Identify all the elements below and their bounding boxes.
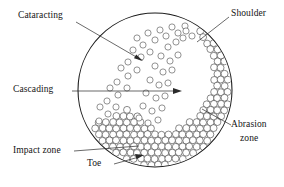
charge-ball (114, 79, 120, 85)
charge-ball (218, 100, 225, 107)
charge-ball (153, 95, 159, 101)
charge-ball (214, 58, 221, 65)
charge-ball (183, 125, 190, 132)
charge-ball (200, 131, 207, 138)
charge-ball (124, 106, 131, 113)
charge-ball (97, 104, 103, 110)
mill-charge-motion-diagram: Cataracting Cascading Shoulder Abrasion … (0, 0, 284, 187)
charge-ball (165, 143, 172, 150)
charge-ball (155, 117, 161, 123)
charge-ball (179, 143, 186, 150)
charge-ball (156, 82, 162, 88)
charge-ball (162, 137, 169, 144)
charge-ball (152, 131, 159, 138)
charge-ball (165, 80, 171, 86)
charge-ball (214, 119, 221, 126)
charge-ball (197, 112, 204, 119)
charge-ball (158, 143, 165, 150)
charge-ball (189, 125, 196, 132)
charge-ball (134, 35, 140, 41)
charge-ball (203, 113, 210, 120)
charge-ball (110, 119, 117, 126)
charge-ball (207, 46, 214, 53)
charge-ball (221, 94, 228, 101)
charge-ball (107, 85, 113, 91)
charge-ball (167, 58, 173, 64)
charge-ball (183, 28, 189, 34)
charge-ball (145, 120, 151, 126)
charge-ball (113, 113, 120, 120)
charge-ball (217, 64, 224, 71)
charge-ball (130, 47, 136, 53)
charge-ball (189, 33, 195, 39)
charge-ball (169, 24, 175, 30)
charge-ball (154, 149, 161, 156)
charge-ball (116, 131, 123, 138)
charge-ball (113, 104, 119, 110)
label-toe: Toe (87, 158, 101, 169)
charge-ball (144, 131, 151, 138)
charge-ball (214, 107, 221, 114)
label-impact-zone: Impact zone (13, 145, 61, 156)
charge-ball (204, 125, 211, 132)
charge-ball (165, 44, 171, 50)
charge-ball (158, 53, 164, 59)
label-cascading: Cascading (13, 84, 53, 95)
charge-ball (134, 67, 140, 73)
charge-ball (148, 149, 155, 156)
charge-ball (120, 149, 127, 156)
charge-ball (118, 65, 124, 71)
charge-ball (169, 137, 176, 144)
charge-ball (116, 119, 123, 126)
charge-ball (124, 85, 130, 91)
charge-ball (125, 59, 131, 65)
charge-ball (157, 27, 163, 33)
charge-ball (141, 162, 148, 169)
charge-ball (159, 105, 165, 111)
charge-ball (149, 108, 155, 114)
charge-ball (115, 92, 121, 98)
charge-ball (207, 131, 214, 138)
charge-ball (106, 137, 113, 144)
charge-ball (196, 137, 203, 144)
label-cataracting: Cataracting (18, 10, 63, 21)
abrasion-zone-ball-bed (92, 28, 231, 169)
charge-ball (113, 137, 120, 144)
charge-ball (109, 143, 116, 150)
label-abrasion-zone-line2: zone (240, 133, 258, 144)
charge-ball (123, 131, 130, 138)
charge-ball (186, 143, 193, 150)
charge-ball (189, 137, 196, 144)
charge-ball (210, 125, 217, 132)
charge-ball (105, 111, 111, 117)
charge-ball (147, 49, 153, 55)
charge-ball (140, 103, 146, 109)
charge-ball (175, 30, 181, 36)
charge-ball (204, 137, 211, 144)
charge-ball (104, 98, 110, 104)
charge-ball (160, 69, 166, 75)
charge-ball (136, 115, 142, 121)
charge-ball (172, 155, 179, 162)
charge-ball (193, 119, 200, 126)
charge-ball (127, 149, 134, 156)
charge-ball (180, 35, 186, 41)
charge-ball (106, 125, 113, 132)
charge-ball (224, 76, 231, 83)
charge-ball (96, 131, 103, 138)
charge-ball (162, 93, 168, 99)
charge-ball (96, 118, 102, 124)
charge-ball (144, 155, 151, 162)
charge-ball (152, 37, 158, 43)
label-shoulder: Shoulder (231, 8, 266, 19)
charge-ball (140, 42, 146, 48)
charge-ball (127, 125, 134, 132)
charge-ball (211, 89, 218, 96)
charge-ball (217, 76, 224, 83)
charge-ball (183, 149, 190, 156)
charge-ball (92, 125, 99, 132)
charge-ball (172, 131, 179, 138)
charge-ball (214, 82, 221, 89)
charge-ball (147, 77, 153, 83)
charge-ball (211, 64, 218, 71)
